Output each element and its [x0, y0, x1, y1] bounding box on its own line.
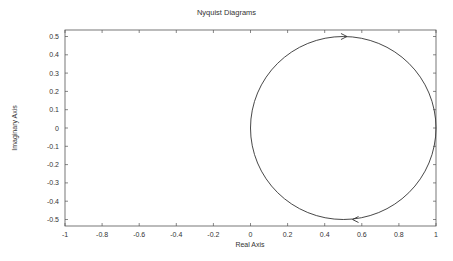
y-tick-label: -0.1 [47, 143, 59, 150]
x-tick-label: -0.6 [133, 231, 145, 238]
x-tick-label: -0.4 [170, 231, 182, 238]
y-tick-label: 0.3 [49, 70, 59, 77]
y-tick-label: 0.2 [49, 88, 59, 95]
x-axis-ticks: -1-0.8-0.6-0.4-0.200.20.40.60.81 [62, 30, 438, 238]
x-tick-label: 0 [249, 231, 253, 238]
x-tick-label: 0.4 [320, 231, 330, 238]
y-tick-label: 0 [55, 125, 59, 132]
nyquist-plot: -1-0.8-0.6-0.4-0.200.20.40.60.81 0.50.40… [0, 0, 453, 261]
x-tick-label: 0.6 [357, 231, 367, 238]
x-tick-label: -1 [62, 231, 68, 238]
y-tick-label: 0.1 [49, 106, 59, 113]
y-tick-label: -0.4 [47, 198, 59, 205]
y-tick-label: -0.2 [47, 161, 59, 168]
x-tick-label: 0.2 [283, 231, 293, 238]
x-tick-label: -0.2 [207, 231, 219, 238]
x-tick-label: 1 [434, 231, 438, 238]
y-tick-label: 0.4 [49, 51, 59, 58]
direction-arrow-icon [353, 217, 359, 223]
x-tick-label: -0.8 [96, 231, 108, 238]
y-tick-label: 0.5 [49, 33, 59, 40]
y-axis-ticks: 0.50.40.30.20.10-0.1-0.2-0.3-0.4-0.5 [47, 33, 436, 223]
x-tick-label: 0.8 [394, 231, 404, 238]
nyquist-curve [251, 34, 437, 223]
y-tick-label: -0.3 [47, 179, 59, 186]
y-tick-label: -0.5 [47, 216, 59, 223]
